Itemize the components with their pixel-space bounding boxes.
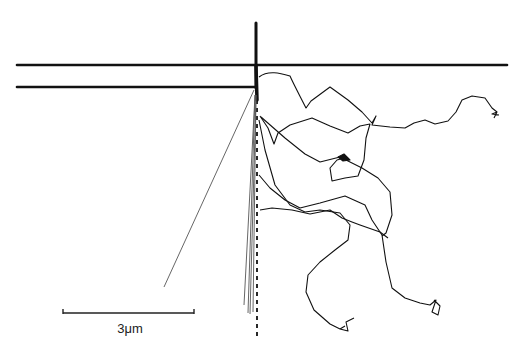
- scale-bar-label: 3μm: [108, 321, 152, 336]
- trajectories: [259, 73, 499, 331]
- trajectory-5: [259, 175, 440, 315]
- trajectory-diagram: [0, 0, 525, 354]
- trajectory-1: [259, 73, 499, 128]
- blob-marker: [338, 154, 350, 161]
- scale-bar: [63, 309, 194, 314]
- trajectory-2: [260, 116, 370, 181]
- deflection-lines: [164, 90, 256, 314]
- support-structure: [17, 23, 507, 100]
- trajectory-4: [259, 120, 354, 331]
- trajectory-3: [261, 117, 392, 236]
